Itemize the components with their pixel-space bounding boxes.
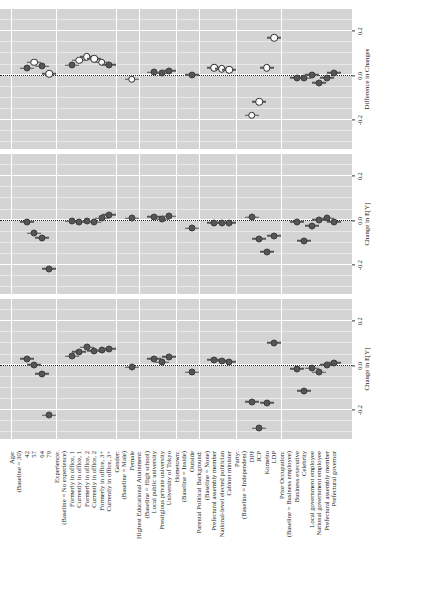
data-point-gen_f <box>128 364 135 371</box>
panel-close-to-ldp: Close to LDP-0.20.00.2Change in E[Y] <box>0 299 352 439</box>
axis-tick-label: 0.2 <box>356 27 363 35</box>
data-point-occ_bex <box>293 365 300 372</box>
data-point-exp_c2 <box>91 219 98 226</box>
x-axis-close-to-ldp: -0.20.00.2Change in E[Y] <box>352 299 370 439</box>
panel-close-to-dpj: Close to DPJ-0.20.00.2Change in E[Y] <box>0 154 352 294</box>
data-point-exp_f3 <box>98 215 105 222</box>
gridline-horizontal <box>199 9 200 149</box>
gridline-horizontal <box>139 154 140 294</box>
axis-tick <box>352 365 355 366</box>
data-point-party_kom <box>263 400 270 407</box>
data-point-age_42 <box>23 356 30 363</box>
data-point-age_64 <box>38 63 45 70</box>
gridline-horizontal <box>11 154 12 294</box>
axis-tick-label: -0.2 <box>356 115 363 125</box>
gridline-horizontal <box>281 9 282 149</box>
data-point-occ_pam <box>323 74 330 81</box>
axis-tick-label: 0.0 <box>356 362 363 370</box>
data-point-party_jcp <box>255 98 263 106</box>
data-point-home_out <box>188 225 195 232</box>
data-point-occ_nge <box>316 369 323 376</box>
axis-tick <box>352 410 355 411</box>
axis-tick <box>352 176 355 177</box>
axis-title-close-to-ldp: Change in E[Y] <box>363 299 370 439</box>
gridline-horizontal <box>139 299 140 439</box>
data-point-occ_bex <box>293 218 300 225</box>
gridline-horizontal <box>281 154 282 294</box>
gridline-horizontal <box>176 9 177 149</box>
data-point-edu_tokyo <box>166 68 173 75</box>
axis-tick-label: -0.2 <box>356 405 363 415</box>
data-point-occ_cel <box>301 387 308 394</box>
axis-title-comparison: Difference in Changes <box>363 9 370 149</box>
figure-page: Age:(Baseline = 30)42576479Experience:(B… <box>0 0 429 589</box>
gridline-horizontal <box>236 299 237 439</box>
gridline-horizontal <box>56 154 57 294</box>
data-point-occ_nge <box>316 79 323 86</box>
gridline-horizontal <box>56 299 57 439</box>
data-point-party_dpj <box>248 214 255 221</box>
data-point-age_57 <box>31 361 38 368</box>
data-point-age_42 <box>23 218 30 225</box>
gridline-horizontal <box>116 154 117 294</box>
axis-tick-label: 0.0 <box>356 72 363 80</box>
data-point-edu_ppu <box>158 359 165 366</box>
axis-tick-label: 0.0 <box>356 217 363 225</box>
coefficient-plot-figure: Age:(Baseline = 30)42576479Experience:(B… <box>0 0 429 589</box>
gridline-horizontal <box>199 299 200 439</box>
plot-area-close-to-ldp <box>0 299 352 439</box>
data-point-edu_tokyo <box>166 213 173 220</box>
data-point-gen_f <box>128 215 135 222</box>
gridline-horizontal <box>236 154 237 294</box>
plot-area-close-to-dpj <box>0 154 352 294</box>
gridline-horizontal <box>176 154 177 294</box>
data-point-edu_tokyo <box>166 353 173 360</box>
data-point-age_57 <box>31 230 38 237</box>
row-label-column: Age:(Baseline = 30)42576479Experience:(B… <box>0 447 352 589</box>
data-point-occ_cel <box>301 237 308 244</box>
gridline-horizontal <box>11 9 12 149</box>
plot-area-comparison <box>0 9 352 149</box>
axis-tick-label: -0.2 <box>356 260 363 270</box>
data-point-age_64 <box>38 235 45 242</box>
x-axis-comparison: -0.20.00.2Difference in Changes <box>352 9 370 149</box>
gridline-horizontal <box>236 9 237 149</box>
data-point-party_jcp <box>256 425 263 432</box>
data-point-exp_c3 <box>106 211 113 218</box>
data-point-occ_cel <box>301 75 308 82</box>
data-point-age_64 <box>38 370 45 377</box>
data-point-gen_f <box>128 76 136 84</box>
gridline-horizontal <box>176 299 177 439</box>
axis-tick <box>352 31 355 32</box>
rotated-figure-wrapper: Age:(Baseline = 30)42576479Experience:(B… <box>0 0 429 589</box>
data-point-occ_lge <box>308 72 315 79</box>
data-point-occ_lge <box>308 222 315 229</box>
axis-tick-label: 0.2 <box>356 317 363 325</box>
data-point-exp_f1 <box>68 62 75 69</box>
gridline-horizontal <box>199 154 200 294</box>
data-point-party_kom <box>263 64 271 72</box>
gridline-horizontal <box>116 299 117 439</box>
axis-tick <box>352 220 355 221</box>
data-point-exp_f1 <box>68 353 75 360</box>
data-point-age_79 <box>46 412 53 419</box>
data-point-exp_c3 <box>106 61 113 68</box>
data-point-par_cab <box>225 66 233 74</box>
data-point-age_42 <box>23 65 30 72</box>
data-point-occ_gov <box>331 360 338 367</box>
data-point-party_dpj <box>248 111 256 119</box>
data-point-party_jcp <box>256 235 263 242</box>
data-point-age_79 <box>45 70 53 78</box>
gridline-horizontal <box>116 9 117 149</box>
data-point-age_79 <box>46 265 53 272</box>
panel-comparison: Comparison-0.20.00.2Difference in Change… <box>0 9 352 149</box>
data-point-home_out <box>188 369 195 376</box>
data-point-exp_c1 <box>76 348 83 355</box>
axis-tick <box>352 265 355 266</box>
gridline-horizontal <box>56 9 57 149</box>
data-point-par_cab <box>226 358 233 365</box>
data-point-party_ldp <box>271 232 278 239</box>
axis-tick <box>352 321 355 322</box>
axis-tick <box>352 75 355 76</box>
data-point-party_dpj <box>248 398 255 405</box>
